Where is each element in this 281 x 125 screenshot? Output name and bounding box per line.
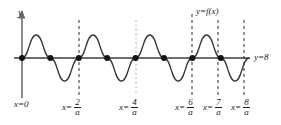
fraction-numerator: 7 — [215, 98, 222, 107]
tick-label-x8a: x= 8 a — [231, 98, 250, 118]
point-x5a — [161, 55, 167, 61]
figure-screenshot: y y=f(x) y=8 x=0 x= 2 a x= 4 a x= 6 a — [0, 0, 281, 125]
point-x3a — [104, 55, 110, 61]
level-line-label: y=8 — [254, 53, 269, 62]
point-x7a — [218, 55, 224, 61]
fraction-4-over-a: 4 a — [131, 98, 138, 118]
tick-label-x2a-lead: x= — [62, 103, 72, 112]
fraction-7-over-a: 7 a — [215, 98, 222, 118]
point-x2a — [76, 55, 82, 61]
tick-label-x8a-lead: x= — [231, 103, 241, 112]
fraction-denominator: a — [74, 108, 81, 117]
fraction-numerator: 8 — [243, 98, 250, 107]
y-axis-label: y — [18, 8, 22, 18]
tick-label-x4a-lead: x= — [119, 103, 129, 112]
point-x0 — [19, 55, 25, 61]
tick-label-x0-text: x=0 — [14, 100, 29, 109]
tick-label-x6a: x= 6 a — [175, 98, 194, 118]
point-x6a — [189, 55, 195, 61]
tick-label-x7a-lead: x= — [203, 103, 213, 112]
tick-label-x4a: x= 4 a — [119, 98, 138, 118]
fraction-8-over-a: 8 a — [243, 98, 250, 118]
fraction-6-over-a: 6 a — [187, 98, 194, 118]
tick-label-x7a: x= 7 a — [203, 98, 222, 118]
y-axis — [19, 10, 26, 98]
fraction-denominator: a — [215, 108, 222, 117]
point-x1a — [47, 55, 53, 61]
tick-label-x2a: x= 2 a — [62, 98, 81, 118]
point-x4a — [133, 55, 139, 61]
fraction-numerator: 6 — [187, 98, 194, 107]
curve-label: y=f(x) — [196, 7, 219, 16]
fraction-denominator: a — [187, 108, 194, 117]
fraction-denominator: a — [243, 108, 250, 117]
tick-label-x0: x=0 — [14, 100, 30, 109]
fraction-numerator: 2 — [74, 98, 81, 107]
fraction-2-over-a: 2 a — [74, 98, 81, 118]
tick-label-x6a-lead: x= — [175, 103, 185, 112]
fraction-denominator: a — [131, 108, 138, 117]
fraction-numerator: 4 — [131, 98, 138, 107]
